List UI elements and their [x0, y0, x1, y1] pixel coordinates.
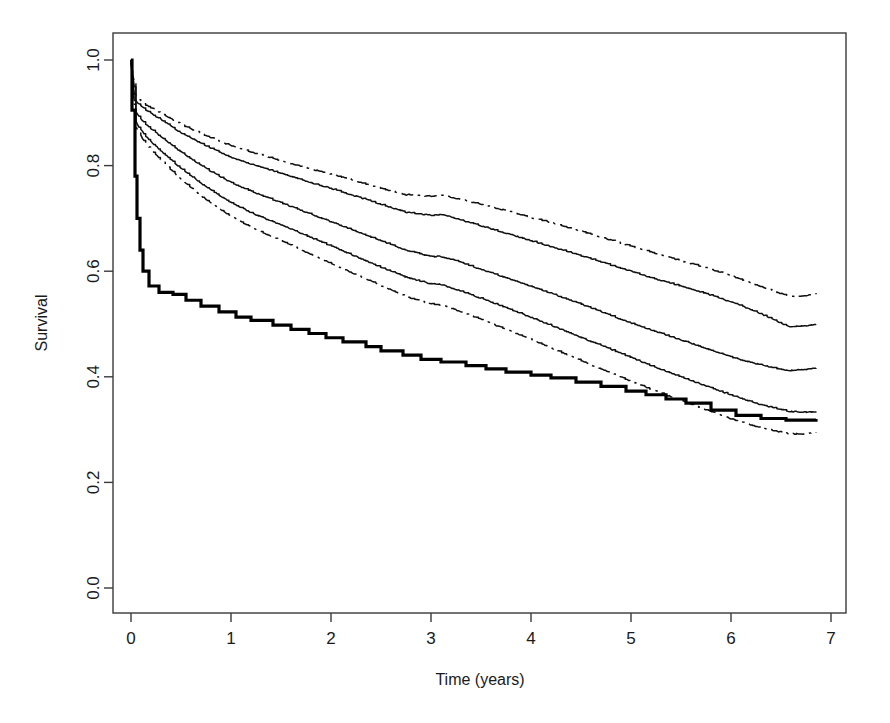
- y-tick-label: 0.4: [84, 365, 103, 389]
- y-tick-label: 1.0: [84, 48, 103, 72]
- y-tick-label: 0.6: [84, 259, 103, 283]
- x-tick-label: 4: [526, 629, 535, 648]
- y-tick-label: 0.2: [84, 471, 103, 495]
- x-axis-title: Time (years): [435, 671, 524, 688]
- x-tick-label: 0: [126, 629, 135, 648]
- y-axis-title: Survival: [33, 295, 50, 352]
- plot-canvas: 0.00.20.40.60.81.0 01234567 Survival Tim…: [0, 0, 890, 723]
- x-tick-label: 2: [326, 629, 335, 648]
- survival-plot-figure: 0.00.20.40.60.81.0 01234567 Survival Tim…: [0, 0, 890, 723]
- x-tick-label: 6: [726, 629, 735, 648]
- y-tick-label: 0.0: [84, 576, 103, 600]
- x-tick-label: 1: [226, 629, 235, 648]
- x-tick-label: 5: [626, 629, 635, 648]
- y-tick-label: 0.8: [84, 154, 103, 178]
- x-tick-label: 3: [426, 629, 435, 648]
- x-tick-label: 7: [826, 629, 835, 648]
